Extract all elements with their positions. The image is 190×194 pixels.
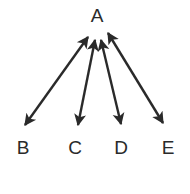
arrow-a-b bbox=[25, 37, 88, 125]
arrow-a-e bbox=[108, 33, 163, 123]
arrow-a-d bbox=[101, 40, 121, 124]
arrow-a-c bbox=[78, 40, 95, 125]
node-label-a: A bbox=[91, 5, 104, 26]
node-label-c: C bbox=[68, 137, 82, 158]
diagram-canvas: A B C D E bbox=[0, 0, 190, 194]
node-label-e: E bbox=[162, 137, 175, 158]
node-label-d: D bbox=[114, 137, 128, 158]
node-label-b: B bbox=[17, 137, 30, 158]
